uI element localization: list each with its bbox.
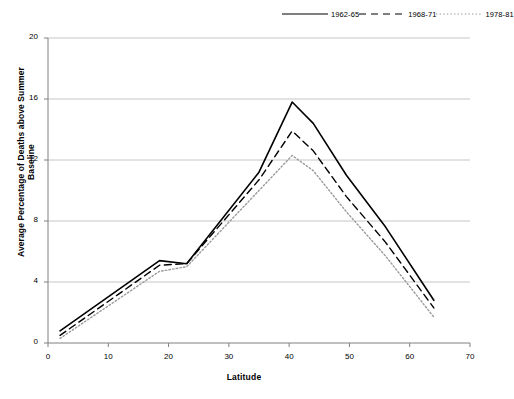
y-tick-label-8: 8: [14, 215, 38, 224]
x-tick-label-50: 50: [337, 352, 361, 361]
x-tick-label-20: 20: [157, 352, 181, 361]
x-tick-label-60: 60: [398, 352, 422, 361]
y-tick-label-12: 12: [14, 154, 38, 163]
y-tick-label-0: 0: [14, 337, 38, 346]
y-tick-label-4: 4: [14, 276, 38, 285]
series-line-1962-65: [60, 102, 434, 331]
y-tick-label-20: 20: [14, 32, 38, 41]
x-tick-label-10: 10: [96, 352, 120, 361]
y-tick-label-16: 16: [14, 93, 38, 102]
x-tick-label-0: 0: [36, 352, 60, 361]
legend-label-1978-81: 1978-81: [485, 10, 513, 19]
series-line-1968-71: [60, 131, 434, 335]
x-tick-label-40: 40: [277, 352, 301, 361]
x-tick-label-70: 70: [458, 352, 482, 361]
series-line-1978-81: [60, 155, 434, 338]
x-tick-label-30: 30: [217, 352, 241, 361]
